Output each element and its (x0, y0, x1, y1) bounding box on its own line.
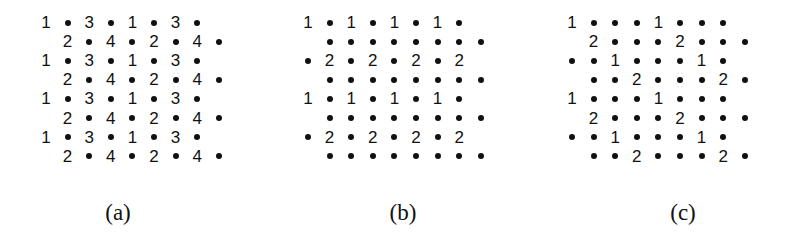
lattice-label: 1 (605, 52, 625, 70)
caption-b: (b) (363, 200, 443, 226)
lattice-dot-icon (562, 129, 582, 147)
lattice-dot-icon (584, 129, 604, 147)
lattice-label: 2 (627, 71, 647, 89)
lattice-label: 2 (670, 33, 690, 51)
lattice-dot-icon (713, 33, 733, 51)
lattice-dot-icon (735, 110, 755, 128)
lattice-dot-icon (648, 148, 668, 166)
lattice-label: 1 (648, 90, 668, 108)
lattice-dot-icon (605, 110, 625, 128)
lattice-dot-icon (713, 52, 733, 70)
lattice-dot-icon (692, 33, 712, 51)
lattice-dot-icon (735, 71, 755, 89)
lattice-dot-icon (713, 14, 733, 32)
lattice-label: 1 (648, 14, 668, 32)
lattice-label: 2 (584, 33, 604, 51)
lattice-label: 2 (584, 110, 604, 128)
lattice-dot-icon (584, 52, 604, 70)
lattice-dot-icon (670, 71, 690, 89)
lattice-dot-icon (670, 52, 690, 70)
lattice-dot-icon (584, 14, 604, 32)
lattice-dot-icon (648, 110, 668, 128)
lattice-dot-icon (648, 71, 668, 89)
lattice-dot-icon (692, 90, 712, 108)
lattice-dot-icon (627, 129, 647, 147)
lattice-label: 1 (692, 52, 712, 70)
lattice-dot-icon (562, 52, 582, 70)
lattice-dot-icon (735, 148, 755, 166)
caption-a: (a) (78, 200, 158, 226)
lattice-dot-icon (584, 71, 604, 89)
lattice-dot-icon (713, 110, 733, 128)
lattice-dot-icon (627, 52, 647, 70)
lattice-label: 2 (627, 148, 647, 166)
lattice-dot-icon (605, 33, 625, 51)
lattice-dot-icon (605, 90, 625, 108)
lattice-dot-icon (605, 14, 625, 32)
lattice-dot-icon (692, 14, 712, 32)
lattice-dot-icon (627, 14, 647, 32)
lattice-dot-icon (670, 129, 690, 147)
lattice-dot-icon (692, 148, 712, 166)
lattice-dot-icon (670, 14, 690, 32)
lattice-dot-icon (648, 129, 668, 147)
lattice-dot-icon (627, 90, 647, 108)
lattice-dot-icon (670, 148, 690, 166)
lattice-label: 2 (713, 71, 733, 89)
lattice-label: 1 (605, 129, 625, 147)
lattice-dot-icon (605, 148, 625, 166)
lattice-label: 1 (692, 129, 712, 147)
caption-c: (c) (643, 200, 723, 226)
lattice-dot-icon (713, 90, 733, 108)
lattice-label: 2 (670, 110, 690, 128)
lattice-dot-icon (692, 71, 712, 89)
lattice-dot-icon (735, 33, 755, 51)
lattice-label: 1 (562, 14, 582, 32)
lattice-dot-icon (648, 52, 668, 70)
lattice-dot-icon (584, 148, 604, 166)
lattice-dot-icon (648, 33, 668, 51)
panel-c: 1122112211221122 (0, 0, 786, 180)
lattice-dot-icon (713, 129, 733, 147)
lattice-label: 1 (562, 90, 582, 108)
lattice-label: 2 (713, 148, 733, 166)
lattice-dot-icon (584, 90, 604, 108)
lattice-dot-icon (627, 33, 647, 51)
lattice-dot-icon (627, 110, 647, 128)
lattice-dot-icon (670, 90, 690, 108)
lattice-dot-icon (692, 110, 712, 128)
lattice-dot-icon (605, 71, 625, 89)
